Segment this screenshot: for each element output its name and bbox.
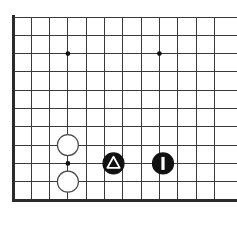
- star-point: [157, 51, 162, 56]
- stone-white[interactable]: [57, 135, 78, 156]
- go-board-diagram: [0, 0, 237, 229]
- stone-black[interactable]: [153, 153, 174, 174]
- move-number-marker-icon: [161, 157, 164, 170]
- go-board-canvas: [0, 0, 237, 229]
- stone-white[interactable]: [57, 171, 78, 192]
- white-stone-icon: [57, 171, 78, 192]
- stone-black[interactable]: [103, 153, 124, 174]
- star-point: [66, 51, 71, 56]
- star-point: [66, 161, 71, 166]
- board-background: [0, 0, 237, 229]
- white-stone-icon: [57, 135, 78, 156]
